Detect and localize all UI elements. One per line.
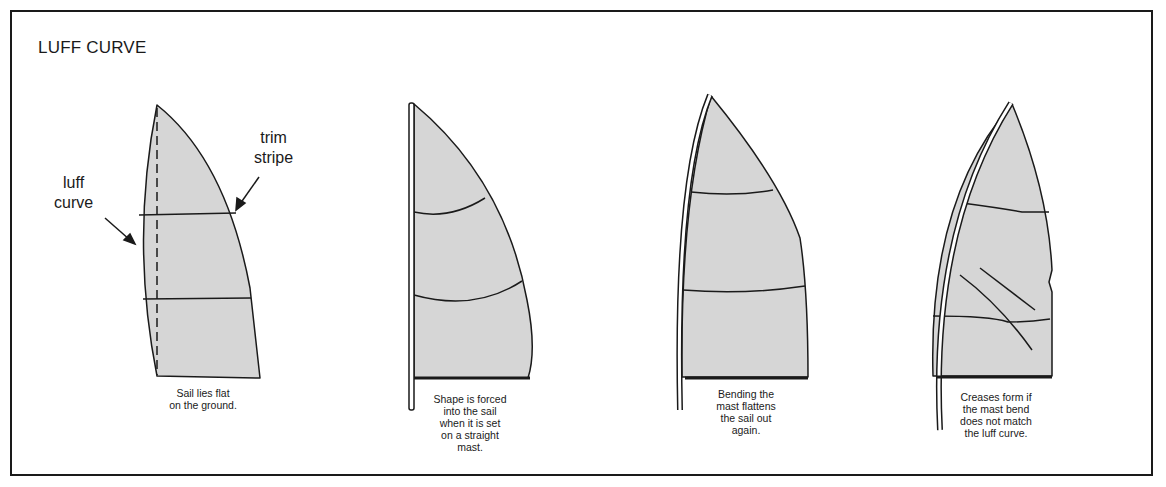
trim-stripe-label-line1: trim (254, 128, 293, 148)
bent-mast-sail (679, 95, 808, 410)
luff-curve-label-line1: luff (54, 173, 93, 193)
caption-line: Bending the (676, 388, 816, 400)
caption-line: mast flattens (676, 400, 816, 412)
straight-mast-sail (409, 103, 532, 410)
creased-sail (933, 103, 1052, 430)
luff-curve-label: luff curve (54, 173, 93, 213)
caption-line: when it is set (400, 417, 540, 429)
caption-line: does not match (926, 415, 1066, 427)
caption-line: again. (676, 424, 816, 436)
caption-mismatched-bend: Creases form if the mast bend does not m… (926, 391, 1066, 439)
trim-stripe-label-line2: stripe (254, 148, 293, 168)
caption-line: into the sail (400, 405, 540, 417)
caption-line: Shape is forced (400, 393, 540, 405)
trim-stripe-label: trim stripe (254, 128, 293, 168)
caption-line: on a straight (400, 429, 540, 441)
luff-curve-label-line2: curve (54, 193, 93, 213)
caption-line: Creases form if (926, 391, 1066, 403)
flat-sail (139, 105, 260, 378)
caption-line: the luff curve. (926, 427, 1066, 439)
caption-line: the mast bend (926, 403, 1066, 415)
caption-line: Sail lies flat (133, 387, 273, 399)
caption-line: on the ground. (133, 399, 273, 411)
caption-line: mast. (400, 441, 540, 453)
caption-line: the sail out (676, 412, 816, 424)
caption-flat: Sail lies flat on the ground. (133, 387, 273, 411)
caption-straight-mast: Shape is forced into the sail when it is… (400, 393, 540, 453)
caption-bent-mast: Bending the mast flattens the sail out a… (676, 388, 816, 436)
